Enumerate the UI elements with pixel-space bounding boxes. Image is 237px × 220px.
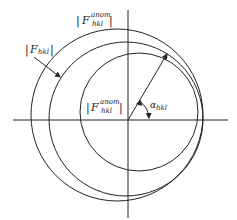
subscript: hkl bbox=[156, 105, 167, 112]
abs-bar-right: | bbox=[109, 15, 113, 26]
abs-bar-left: | bbox=[86, 102, 90, 113]
superscript: anom bbox=[91, 12, 111, 19]
symbol-F: F bbox=[91, 102, 99, 113]
phase-angle-label: α hkl bbox=[150, 101, 176, 113]
inner-circle-label: | F anom hkl | bbox=[86, 99, 126, 117]
abs-bar-left: | bbox=[25, 44, 29, 55]
abs-bar-left: | bbox=[76, 15, 80, 26]
subscript: hkl bbox=[92, 21, 103, 28]
abs-bar-right: | bbox=[50, 44, 54, 55]
symbol-F: F bbox=[30, 44, 38, 55]
subscript: hkl bbox=[38, 49, 49, 56]
symbol-F: F bbox=[82, 15, 90, 26]
harker-diagram: | F anom hkl | | F hkl | | F anom hkl | … bbox=[0, 0, 237, 220]
subscript: hkl bbox=[101, 108, 112, 115]
superscript: anom bbox=[100, 99, 120, 106]
middle-circle-pointer bbox=[34, 57, 60, 77]
outer-circle-label: | F anom hkl | bbox=[76, 12, 116, 30]
middle-circle bbox=[49, 42, 203, 196]
middle-circle-label: | F hkl | bbox=[25, 43, 55, 57]
abs-bar-right: | bbox=[119, 102, 123, 113]
